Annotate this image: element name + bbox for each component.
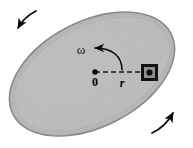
rotation-arrow-bottom-right [152,113,173,133]
origin-label: 0 [92,75,98,89]
physics-diagram-svg: 0 r ω [0,0,193,148]
angular-velocity-label: ω [77,42,86,57]
disk-center-dot [92,69,97,74]
disk-center [92,69,97,74]
figure-container: 0 r ω [0,0,193,148]
rotation-arrow-top-left [18,11,36,28]
rotation-arrow-top-left-path [18,11,36,28]
radius-label: r [120,76,125,90]
block-center-dot [146,69,152,75]
rotation-arrow-bottom-right-path [152,113,173,133]
sliding-block [141,64,158,81]
